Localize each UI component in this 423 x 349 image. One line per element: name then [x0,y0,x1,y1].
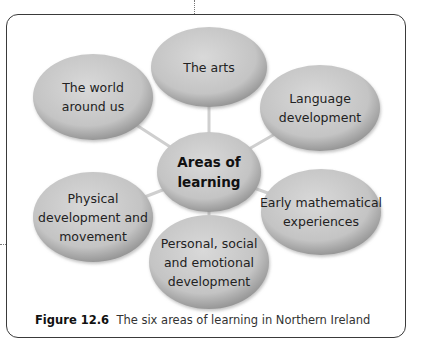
caption-text: The six areas of learning in Northern Ir… [116,313,370,327]
caption-label: Figure 12.6 [35,313,109,327]
node-arts: The arts [183,58,234,77]
center-node: Areas of learning [177,152,240,192]
node-world: The world around us [62,78,124,116]
figure-caption: Figure 12.6 The six areas of learning in… [35,313,370,327]
node-personal: Personal, social and emotional developme… [161,234,258,291]
node-maths: Early mathematical experiences [260,193,382,231]
node-language: Language development [279,89,361,127]
node-physical: Physical development and movement [38,189,148,246]
